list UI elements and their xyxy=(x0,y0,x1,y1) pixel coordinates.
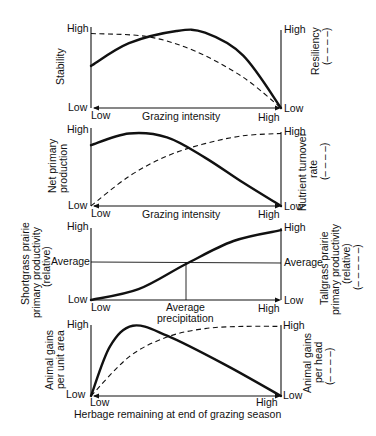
y-low-label: Low xyxy=(66,388,86,400)
x-axis-label: Grazing intensity xyxy=(142,110,221,122)
left-axis-title-line2: per unit area xyxy=(54,330,66,389)
grazing-diagram: High Low High Low Low High Grazing inten… xyxy=(0,0,376,436)
gains-per-head-curve xyxy=(91,326,281,396)
y-low-label: Low xyxy=(68,199,88,211)
x-high-label: High xyxy=(256,396,278,408)
gains-per-area-curve xyxy=(91,325,281,396)
x-low-label: Low xyxy=(91,109,111,121)
right-axis-legend: (– – – –) xyxy=(324,348,335,385)
y-high-label: High xyxy=(67,318,89,330)
y2-low-label: Low xyxy=(283,389,303,401)
right-axis-title-line2: per head xyxy=(312,341,324,383)
x-axis-label: Herbage remaining at end of grazing seas… xyxy=(74,408,281,420)
x-low-label: Low xyxy=(91,301,111,313)
y-high-label: High xyxy=(67,22,89,34)
resiliency-curve xyxy=(91,34,281,109)
x-high-label: High xyxy=(258,208,280,220)
panel-production-nutrient: High Low High Low Low High Grazing inten… xyxy=(46,123,330,220)
right-axis-title-line2: rate xyxy=(307,160,319,178)
y-avg-label: Average xyxy=(51,255,90,267)
y2-high-label: High xyxy=(284,221,306,233)
left-axis-title-line2: production xyxy=(57,144,69,193)
x-low-label: Low xyxy=(90,396,110,408)
y2-high-label: High xyxy=(283,319,305,331)
stability-curve xyxy=(91,30,281,108)
panel-stability-resiliency: High Low High Low Low High Grazing inten… xyxy=(54,22,332,123)
left-axis-title: Stability xyxy=(54,47,66,85)
y-high-label: High xyxy=(67,220,89,232)
right-axis-title-line3: (relative) xyxy=(340,243,352,284)
x-axis-label: Grazing intensity xyxy=(142,208,221,220)
right-axis-title: Resiliency xyxy=(309,26,321,75)
x-high-label: High xyxy=(258,302,280,314)
y2-low-label: Low xyxy=(284,294,304,306)
net-primary-production-curve xyxy=(91,133,281,206)
panel-animal-gains: High Low High Low Low High Herbage remai… xyxy=(43,318,335,420)
right-axis-legend: (– – – –) xyxy=(321,28,332,65)
right-axis-legend: (– – – – –) xyxy=(352,244,363,290)
right-axis-legend: (– – – –) xyxy=(319,143,330,180)
y-high-label: High xyxy=(67,123,89,135)
y-low-label: Low xyxy=(68,101,88,113)
y-low-label: Low xyxy=(68,293,88,305)
x-low-label: Low xyxy=(91,207,111,219)
x-high-label: High xyxy=(258,111,280,123)
left-axis-title-line3: (relative) xyxy=(40,246,52,287)
y2-high-label: High xyxy=(284,23,306,35)
x-axis-label: precipitation xyxy=(157,312,214,324)
nutrient-turnover-curve xyxy=(91,134,281,207)
y2-low-label: Low xyxy=(284,102,304,114)
panel-prairie-productivity: High Average Low High Average Low Low Av… xyxy=(19,220,363,324)
